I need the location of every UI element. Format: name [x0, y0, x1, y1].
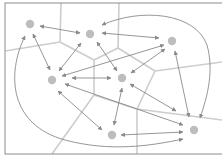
voronoi-network-diagram — [0, 0, 222, 157]
voronoi-edge — [60, 3, 61, 42]
node-B — [86, 30, 94, 38]
node-G — [190, 126, 198, 134]
node-E — [118, 74, 126, 82]
node-D — [48, 76, 56, 84]
node-A — [26, 20, 34, 28]
voronoi-edge — [118, 3, 119, 48]
node-C — [168, 37, 176, 45]
node-F — [108, 131, 116, 139]
